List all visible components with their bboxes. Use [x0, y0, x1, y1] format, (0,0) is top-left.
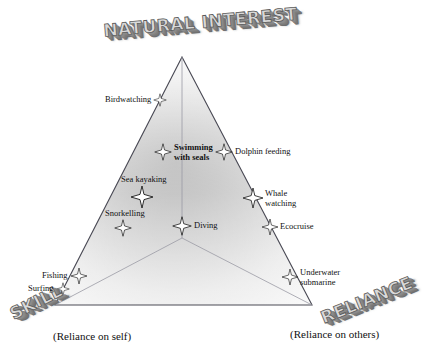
point-label-birdwatching: Birdwatching: [105, 95, 151, 105]
point-label-line: Snorkelling: [105, 209, 145, 219]
point-label-line: Fishing: [42, 271, 68, 281]
point-label-line: submarine: [300, 278, 340, 288]
point-label-swimming-with-seals: Swimmingwith seals: [174, 143, 213, 162]
point-label-line: Ecocruise: [280, 222, 314, 232]
point-label-line: Birdwatching: [105, 95, 151, 105]
point-label-line: watching: [265, 199, 296, 209]
point-label-line: Diving: [194, 221, 218, 231]
point-label-underwater-submarine: Underwatersubmarine: [300, 268, 340, 287]
point-label-fishing: Fishing: [42, 271, 68, 281]
point-label-ecocruise: Ecocruise: [280, 222, 314, 232]
point-label-snorkelling: Snorkelling: [105, 209, 145, 219]
triangle-body: [55, 57, 312, 305]
axis-sublabel-reliance-on-others: (Reliance on others): [290, 328, 379, 340]
point-label-diving: Diving: [194, 221, 218, 231]
point-label-whale-watching: Whalewatching: [265, 189, 296, 208]
point-label-sea-kayaking: Sea kayaking: [121, 175, 167, 185]
point-label-line: with seals: [174, 153, 213, 163]
point-label-surfing: Surfing: [28, 284, 54, 294]
point-label-line: Surfing: [28, 284, 54, 294]
axis-sublabel-reliance-on-self: (Reliance on self): [53, 330, 131, 342]
figure-canvas: NATURAL INTEREST SKILL RELIANCE (Relianc…: [0, 0, 423, 355]
point-label-dolphin-feeding: Dolphin feeding: [235, 147, 290, 157]
point-label-line: Dolphin feeding: [235, 147, 290, 157]
point-label-line: Sea kayaking: [121, 175, 167, 185]
